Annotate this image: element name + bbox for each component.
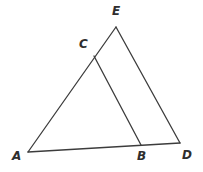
geometry-figure: A B C D E (0, 0, 203, 172)
segment-A-E (28, 27, 116, 152)
segment-A-D (28, 143, 180, 152)
vertex-label-A: A (12, 150, 21, 162)
vertex-label-B: B (137, 150, 146, 162)
figure-canvas (0, 0, 203, 172)
segment-C-B (94, 56, 141, 145)
vertex-label-D: D (182, 149, 192, 161)
vertex-label-C: C (79, 38, 88, 50)
segment-E-D (116, 27, 180, 143)
vertex-label-E: E (112, 5, 120, 17)
